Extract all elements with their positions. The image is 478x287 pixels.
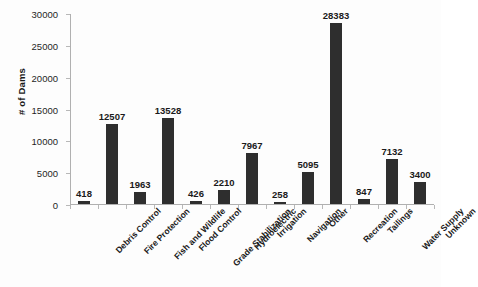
bar-value-label: 13528 xyxy=(155,105,181,116)
bar xyxy=(190,201,202,204)
bar xyxy=(78,201,90,204)
x-axis-tick xyxy=(434,205,435,209)
bar-value-label: 7967 xyxy=(241,140,262,151)
bar xyxy=(162,118,174,204)
x-axis-label-group: Debris ControlFire ProtectionFish and Wi… xyxy=(70,206,434,287)
bar-value-label: 258 xyxy=(272,189,288,200)
bar xyxy=(106,124,118,204)
bar-value-label: 5095 xyxy=(297,159,318,170)
bar xyxy=(134,192,146,204)
y-axis-tick-label: 20000 xyxy=(0,72,58,83)
y-axis-tick-label: 0 xyxy=(0,200,58,211)
y-axis-tick-label: 5000 xyxy=(0,168,58,179)
bar-value-label: 847 xyxy=(356,186,372,197)
y-axis-tick xyxy=(66,141,70,142)
bar-value-label: 418 xyxy=(76,188,92,199)
y-axis-tick-label: 30000 xyxy=(0,9,58,20)
bar-value-label: 1963 xyxy=(129,179,150,190)
bar xyxy=(414,182,426,204)
bar xyxy=(330,23,342,204)
bar-value-label: 2210 xyxy=(213,177,234,188)
bar-value-label: 28383 xyxy=(323,10,349,21)
y-axis-tick xyxy=(66,14,70,15)
y-axis-line xyxy=(70,14,71,205)
y-axis-tick-label: 10000 xyxy=(0,136,58,147)
y-axis-title: # of Dams xyxy=(16,47,27,137)
bar xyxy=(274,202,286,204)
y-axis-tick xyxy=(66,78,70,79)
x-axis-category-label: Other xyxy=(327,206,350,229)
bar-value-label: 7132 xyxy=(381,146,402,157)
bar xyxy=(386,159,398,204)
bar-value-label: 12507 xyxy=(99,111,125,122)
y-axis-tick xyxy=(66,173,70,174)
bar-value-label: 426 xyxy=(188,188,204,199)
bar xyxy=(246,153,258,204)
bar-value-label: 3400 xyxy=(409,169,430,180)
y-axis-tick-label: 25000 xyxy=(0,40,58,51)
x-axis-line xyxy=(70,204,434,205)
y-axis-tick-label: 15000 xyxy=(0,104,58,115)
y-axis-tick xyxy=(66,46,70,47)
bar xyxy=(218,190,230,204)
bar xyxy=(358,199,370,204)
plot-area: 050001000015000200002500030000 418125071… xyxy=(70,14,434,205)
bar xyxy=(302,172,314,204)
y-axis-tick xyxy=(66,110,70,111)
